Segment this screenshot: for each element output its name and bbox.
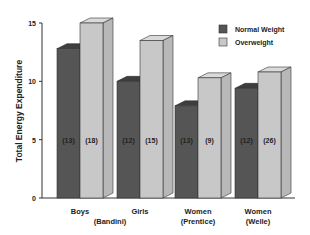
x-tick-sublabel: (Prentice) xyxy=(181,217,216,226)
bar-overweight: (9) xyxy=(198,73,231,198)
bar-overweight: (26) xyxy=(258,67,291,198)
x-tick-sublabel: (Welle) xyxy=(246,217,271,226)
sample-size-label: (12) xyxy=(240,137,252,145)
x-tick-label: Women xyxy=(185,207,212,216)
y-tick-label: 0 xyxy=(32,195,36,202)
y-axis-label: Total Energy Expenditure xyxy=(14,60,24,163)
sample-size-label: (12) xyxy=(122,137,134,145)
bar-overweight: (15) xyxy=(140,36,173,199)
bar-chart: 051015 (13)(18)(12)(15)(13)(9)(12)(26) B… xyxy=(0,0,310,235)
x-tick-label: Women xyxy=(245,207,272,216)
sample-size-label: (15) xyxy=(145,137,157,145)
bar-overweight: (18) xyxy=(80,18,113,198)
x-tick-label: Boys xyxy=(71,207,89,216)
legend-swatch xyxy=(219,38,227,46)
x-tick-label: Girls xyxy=(131,207,148,216)
y-tick-label: 5 xyxy=(32,137,36,144)
sample-size-label: (18) xyxy=(85,137,97,145)
x-axis-labels: BoysGirlsWomen(Prentice)Women(Welle)(Ban… xyxy=(71,207,272,226)
x-group-caption: (Bandini) xyxy=(94,217,127,226)
sample-size-label: (13) xyxy=(180,137,192,145)
sample-size-label: (9) xyxy=(205,137,214,145)
legend-label: Normal Weight xyxy=(235,26,285,34)
sample-size-label: (13) xyxy=(62,137,74,145)
legend-swatch xyxy=(219,25,227,33)
sample-size-label: (26) xyxy=(263,137,275,145)
y-tick-label: 15 xyxy=(28,20,36,27)
y-tick-label: 10 xyxy=(28,78,36,85)
legend: Normal WeightOverweight xyxy=(219,25,285,47)
legend-label: Overweight xyxy=(235,39,274,47)
